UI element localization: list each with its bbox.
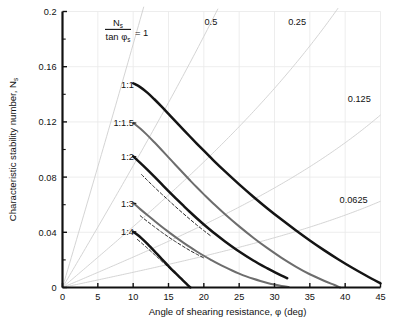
- x-tick-label: 30: [269, 292, 279, 302]
- y-tick-label: 0.16: [39, 62, 57, 72]
- curve-label-1:4: 1:4: [121, 227, 134, 237]
- x-tick-label: 25: [234, 292, 244, 302]
- y-axis-title-subscript: s: [12, 78, 19, 81]
- y-axis-title: Characteristic stability number, Ns: [7, 78, 19, 221]
- slope-curves-group: [133, 83, 380, 287]
- ray-line-0.125: [63, 115, 381, 288]
- formula-numerator-subscript: s: [120, 22, 123, 29]
- ray-label-0.125: 0.125: [348, 94, 371, 104]
- x-tick-label: 5: [95, 292, 100, 302]
- formula-equals-value: = 1: [135, 27, 148, 38]
- ray-label-0.0625: 0.0625: [340, 195, 368, 205]
- curve-label-1:3: 1:3: [121, 199, 134, 209]
- curve-label-1:1: 1:1: [121, 80, 134, 90]
- dashed-curve-1:2-dashed: [142, 175, 211, 236]
- x-tick-label: 40: [340, 292, 350, 302]
- y-tick-label: 0.12: [39, 117, 57, 127]
- ray-line-0.0625: [63, 201, 381, 287]
- curve-label-1:2: 1:2: [121, 152, 134, 162]
- x-axis-title: Angle of shearing resistance, φ (deg): [149, 306, 307, 317]
- curve-1:3: [133, 203, 288, 287]
- y-tick-label: 0.2: [44, 7, 57, 17]
- x-tick-label: 20: [199, 292, 209, 302]
- formula-denominator: tan φs: [106, 31, 131, 43]
- x-tick-label: 35: [305, 292, 315, 302]
- y-tick-label: 0: [51, 283, 56, 293]
- ray-line-1: [63, 7, 144, 288]
- x-tick-label: 45: [375, 292, 385, 302]
- y-tick-label: 0.04: [39, 228, 57, 238]
- x-tick-label: 15: [163, 292, 173, 302]
- curve-1:1: [133, 83, 380, 283]
- x-tick-label: 10: [128, 292, 138, 302]
- ray-label-0.25: 0.25: [288, 17, 306, 27]
- ray-lines-group: [63, 7, 381, 288]
- curve-label-1:1.5: 1:1.5: [113, 118, 133, 128]
- x-tick-label: 0: [60, 292, 65, 302]
- formula-numerator: Ns: [113, 17, 123, 29]
- formula-denominator-subscript: s: [127, 36, 130, 43]
- ray-label-0.5: 0.5: [205, 17, 218, 27]
- ray-line-0.5: [63, 9, 218, 288]
- curve-1:4: [133, 232, 190, 288]
- dashed-curve-1:3-dashed: [140, 216, 204, 258]
- stability-number-chart: 05101520253035404500.040.080.120.160.2 A…: [0, 0, 400, 323]
- chart-figure: 05101520253035404500.040.080.120.160.2 A…: [0, 0, 400, 323]
- y-tick-label: 0.08: [39, 173, 57, 183]
